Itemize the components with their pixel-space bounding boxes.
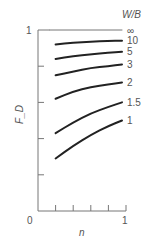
series-line-3 <box>56 64 122 75</box>
x-axis-label: n <box>79 227 85 238</box>
curve-labels: ∞105321.51 <box>127 25 141 127</box>
series-line-10 <box>56 41 122 45</box>
series-label-1: 1 <box>127 115 133 126</box>
curves <box>50 30 122 159</box>
series-line-5 <box>56 52 122 59</box>
y-axis-label: F_D <box>14 105 25 124</box>
series-label-1.5: 1.5 <box>127 97 141 108</box>
legend-title: W/B <box>122 9 141 20</box>
x-tick-label-1: 1 <box>122 215 128 226</box>
series-label-∞: ∞ <box>127 25 134 36</box>
x-tick-label-0: 0 <box>27 215 33 226</box>
axes <box>38 30 126 211</box>
series-label-2: 2 <box>127 77 133 88</box>
series-label-5: 5 <box>127 46 133 57</box>
chart: ∞105321.51 1 0 1 n F_D W/B <box>0 0 151 239</box>
series-line-1.5 <box>56 102 122 133</box>
series-line-2 <box>56 82 122 98</box>
ticks <box>38 66 126 211</box>
series-label-10: 10 <box>127 35 139 46</box>
y-tick-label-1: 1 <box>26 25 32 36</box>
series-label-3: 3 <box>127 59 133 70</box>
